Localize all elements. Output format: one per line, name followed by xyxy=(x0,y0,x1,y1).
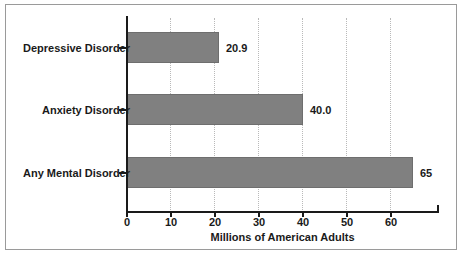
x-tick-label-30: 30 xyxy=(239,216,279,228)
bar-value-any-mental-disorder: 65 xyxy=(420,167,432,179)
plot-area: 20.9 40.0 65 Depressive Disorder Anxiety… xyxy=(0,0,462,256)
x-tick-label-10: 10 xyxy=(151,216,191,228)
bar-depressive-disorder[interactable] xyxy=(127,32,219,63)
category-label-anxiety-disorder: Anxiety Disorder xyxy=(42,104,130,116)
x-axis-end-cap xyxy=(437,205,439,213)
x-tick-label-50: 50 xyxy=(327,216,367,228)
x-tick-label-0: 0 xyxy=(107,216,147,228)
bar-anxiety-disorder[interactable] xyxy=(127,94,303,125)
bar-value-depressive-disorder: 20.9 xyxy=(226,42,247,54)
x-axis-title: Millions of American Adults xyxy=(126,231,439,244)
x-axis-line xyxy=(126,211,439,213)
x-tick-label-60: 60 xyxy=(371,216,411,228)
bar-any-mental-disorder[interactable] xyxy=(127,157,413,188)
x-tick-label-40: 40 xyxy=(283,216,323,228)
chart-screenshot: 20.9 40.0 65 Depressive Disorder Anxiety… xyxy=(0,0,462,256)
category-label-any-mental-disorder: Any Mental Disorder xyxy=(23,167,130,179)
category-label-depressive-disorder: Depressive Disorder xyxy=(23,42,130,54)
x-tick-label-20: 20 xyxy=(195,216,235,228)
bar-value-anxiety-disorder: 40.0 xyxy=(310,104,331,116)
